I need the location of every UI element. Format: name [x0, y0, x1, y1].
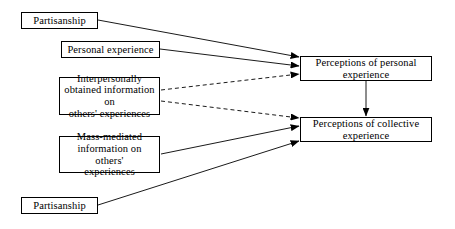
node-label: Personal experience — [64, 44, 156, 56]
edge-mass-mediated-to-perceptions-collective — [161, 126, 299, 154]
node-partisanship-bottom: Partisanship — [21, 197, 98, 214]
edge-personal-experience-to-perceptions-personal — [160, 49, 299, 66]
edge-interpersonal-to-perceptions-collective — [161, 101, 299, 118]
node-label: Perceptions of collective experience — [310, 118, 422, 142]
node-personal-experience: Personal experience — [61, 41, 160, 58]
node-interpersonal-information: Interpersonally obtained information on … — [59, 77, 160, 115]
node-label: Partisanship — [30, 200, 89, 212]
edge-interpersonal-to-perceptions-personal — [161, 74, 299, 90]
node-perceptions-of-personal-experience: Perceptions of personal experience — [300, 56, 432, 81]
node-perceptions-of-collective-experience: Perceptions of collective experience — [300, 117, 432, 142]
node-label: Interpersonally obtained information on … — [60, 73, 159, 120]
node-partisanship-top: Partisanship — [21, 12, 98, 29]
node-label: Partisanship — [30, 15, 89, 27]
node-label: Perceptions of personal experience — [313, 57, 420, 81]
node-mass-mediated-information: Mass-mediated information on others' exp… — [59, 136, 160, 173]
node-label: Mass-mediated information on others' exp… — [60, 131, 159, 178]
path-model-diagram: Partisanship Personal experience Interpe… — [0, 0, 455, 229]
